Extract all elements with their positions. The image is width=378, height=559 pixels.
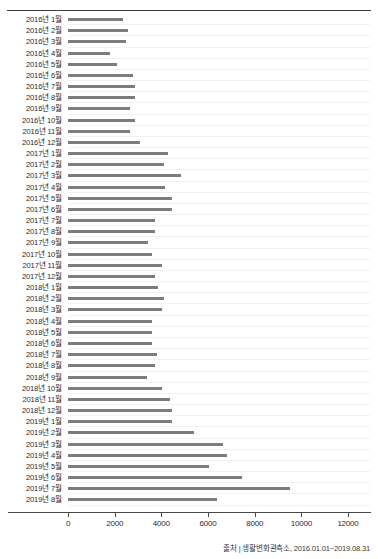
- bar: [68, 241, 148, 244]
- bar: [68, 353, 157, 356]
- bar-track: [68, 316, 348, 327]
- bar: [68, 409, 172, 412]
- bar-row: 2019년 3월: [0, 439, 378, 450]
- category-label: 2018년 11월: [0, 394, 62, 405]
- bar-track: [68, 226, 348, 237]
- bar-row: 2018년 7월: [0, 349, 378, 360]
- bar-row: 2016년 10월: [0, 115, 378, 126]
- bar: [68, 342, 152, 345]
- category-label: 2017년 1월: [0, 148, 62, 159]
- category-label: 2019년 1월: [0, 416, 62, 427]
- bar: [68, 465, 209, 468]
- x-axis-tick: [255, 512, 256, 517]
- bar: [68, 264, 162, 267]
- x-axis-tick-label: 0: [66, 519, 70, 528]
- bar-row: 2016년 1월: [0, 14, 378, 25]
- bar-track: [68, 260, 348, 271]
- bar-track: [68, 215, 348, 226]
- x-axis-tick-label: 10000: [291, 519, 312, 528]
- bar-row: 2017년 7월: [0, 215, 378, 226]
- x-axis-tick: [115, 512, 116, 517]
- bar-track: [68, 59, 348, 70]
- bar: [68, 331, 152, 334]
- bar: [68, 297, 164, 300]
- bar: [68, 387, 162, 390]
- bar: [68, 85, 135, 88]
- bar-row: 2016년 8월: [0, 92, 378, 103]
- x-axis-tick-label: 2000: [106, 519, 123, 528]
- bar: [68, 498, 217, 501]
- category-label: 2019년 6월: [0, 472, 62, 483]
- bar-row: 2016년 2월: [0, 25, 378, 36]
- x-axis-tick: [301, 512, 302, 517]
- bar-track: [68, 483, 348, 494]
- category-label: 2016년 7월: [0, 81, 62, 92]
- bar: [68, 186, 165, 189]
- bar: [68, 219, 155, 222]
- bar-track: [68, 81, 348, 92]
- bar-track: [68, 427, 348, 438]
- bar-track: [68, 159, 348, 170]
- bar-track: [68, 349, 348, 360]
- bar-row: 2017년 5월: [0, 193, 378, 204]
- x-axis-tick-label: 6000: [200, 519, 217, 528]
- bar-row: 2017년 4월: [0, 182, 378, 193]
- category-label: 2018년 2월: [0, 293, 62, 304]
- category-label: 2017년 10월: [0, 249, 62, 260]
- bar-row: 2017년 9월: [0, 237, 378, 248]
- bar: [68, 476, 242, 479]
- category-label: 2018년 4월: [0, 316, 62, 327]
- bar-track: [68, 405, 348, 416]
- bar: [68, 197, 172, 200]
- bar: [68, 431, 194, 434]
- bar-row: 2017년 6월: [0, 204, 378, 215]
- bar-track: [68, 293, 348, 304]
- bar-row: 2019년 4월: [0, 450, 378, 461]
- bar-row: 2017년 8월: [0, 226, 378, 237]
- category-label: 2018년 8월: [0, 360, 62, 371]
- bar-track: [68, 193, 348, 204]
- category-label: 2017년 3월: [0, 170, 62, 181]
- x-axis-tick: [348, 512, 349, 517]
- bar: [68, 443, 223, 446]
- bar: [68, 420, 172, 423]
- bar-track: [68, 416, 348, 427]
- bar: [68, 130, 130, 133]
- bar-row: 2018년 3월: [0, 304, 378, 315]
- bar-track: [68, 461, 348, 472]
- bar-track: [68, 304, 348, 315]
- bar-track: [68, 70, 348, 81]
- bar: [68, 63, 117, 66]
- category-label: 2019년 4월: [0, 450, 62, 461]
- category-label: 2017년 7월: [0, 215, 62, 226]
- bar-row: 2016년 7월: [0, 81, 378, 92]
- bar-row: 2018년 11월: [0, 394, 378, 405]
- category-label: 2017년 2월: [0, 159, 62, 170]
- category-label: 2016년 11월: [0, 126, 62, 137]
- bar: [68, 119, 135, 122]
- bar: [68, 163, 164, 166]
- bar: [68, 96, 135, 99]
- category-label: 2016년 12월: [0, 137, 62, 148]
- bar: [68, 18, 123, 21]
- bar: [68, 40, 126, 43]
- category-label: 2018년 5월: [0, 327, 62, 338]
- bar-track: [68, 36, 348, 47]
- category-label: 2017년 12월: [0, 271, 62, 282]
- bar-row: 2019년 2월: [0, 427, 378, 438]
- bar-track: [68, 25, 348, 36]
- category-label: 2017년 8월: [0, 226, 62, 237]
- bar: [68, 230, 155, 233]
- bar-track: [68, 182, 348, 193]
- top-divider: [7, 10, 371, 11]
- bar-row: 2017년 3월: [0, 170, 378, 181]
- bar-row: 2019년 7월: [0, 483, 378, 494]
- bar-row: 2018년 4월: [0, 316, 378, 327]
- bar-row: 2017년 2월: [0, 159, 378, 170]
- bar-row: 2017년 11월: [0, 260, 378, 271]
- bar-row: 2016년 9월: [0, 103, 378, 114]
- bar-row: 2019년 6월: [0, 472, 378, 483]
- bar-track: [68, 383, 348, 394]
- bar-track: [68, 494, 348, 505]
- category-label: 2018년 6월: [0, 338, 62, 349]
